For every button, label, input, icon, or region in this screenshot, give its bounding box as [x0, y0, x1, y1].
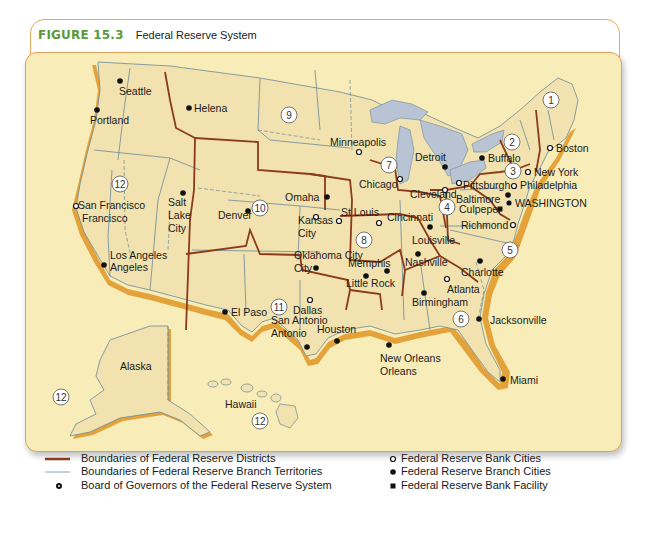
branch-city-dot-icon: [505, 192, 511, 198]
bank-city-open-circle-icon: [337, 219, 342, 224]
city-cleveland: Cleveland: [410, 188, 457, 201]
branch-city-dot-icon: [324, 194, 330, 200]
city-label: Omaha: [285, 191, 320, 203]
map-label: City: [298, 227, 317, 239]
city-label: Memphis: [348, 257, 391, 269]
city-label: Salt: [168, 196, 186, 208]
map-label: Francisco: [82, 212, 128, 224]
svg-text:2: 2: [509, 137, 515, 148]
branch-city-dot-icon: [442, 164, 448, 170]
map-label: Angeles: [110, 261, 148, 273]
board-of-governors-dot-icon: [506, 200, 512, 206]
bank-city-open-circle-icon: [526, 170, 531, 175]
branch-city-dot-icon: [384, 268, 390, 274]
city-denver: Denver: [218, 208, 252, 221]
city-label: Birmingham: [412, 296, 468, 308]
city-new-york: New York: [526, 166, 580, 178]
map-label: City: [294, 262, 313, 274]
map-label: Antonio: [271, 327, 307, 339]
district-12-alaska-marker: 12: [53, 389, 69, 405]
branch-city-dot-icon: [222, 309, 228, 315]
city-label: Cincinnati: [387, 211, 433, 223]
district-4-marker: 4: [439, 199, 455, 215]
branch-city-dot-icon: [476, 316, 482, 322]
city-philadelphia: Philadelphia: [512, 179, 578, 191]
svg-text:9: 9: [286, 110, 292, 121]
district-6-marker: 6: [453, 311, 469, 327]
city-label: El Paso: [231, 306, 267, 318]
city-culpeper: Culpeper: [459, 203, 503, 215]
branch-city-dot-icon: [500, 376, 506, 382]
svg-text:1: 1: [548, 95, 554, 106]
city-label: Little Rock: [346, 277, 396, 289]
map-label: Hawaii: [225, 398, 257, 410]
branch-city-dot-icon: [479, 155, 485, 161]
svg-text:12: 12: [254, 416, 266, 427]
city-label: St Louis: [341, 206, 379, 218]
city-richmond: Richmond: [461, 219, 516, 231]
branch-city-dot-icon: [101, 262, 107, 268]
city-label: Los Angeles: [110, 249, 167, 261]
map-label: Alaska: [120, 360, 152, 372]
district-9-marker: 9: [281, 107, 297, 123]
district-8-marker: 8: [356, 232, 372, 248]
svg-text:11: 11: [274, 302, 285, 313]
city-new-orleans: New Orleans: [380, 342, 441, 364]
city-label: Pittsburgh: [463, 179, 510, 191]
city-label: Minneapolis: [330, 136, 386, 148]
bank-city-open-circle-icon: [357, 150, 362, 155]
city-label: New Orleans: [380, 352, 441, 364]
bank-city-open-circle-icon: [548, 146, 553, 151]
city-label: San Antonio: [271, 314, 328, 326]
city-label: Boston: [556, 142, 589, 154]
district-7-marker: 7: [381, 157, 397, 173]
branch-city-dot-icon: [421, 290, 427, 296]
district-2-marker: 2: [504, 134, 520, 150]
city-label: WASHINGTON: [515, 197, 587, 209]
city-label: Denver: [218, 209, 252, 221]
map-label: Orleans: [380, 365, 417, 377]
district-10-marker: 10: [252, 200, 268, 216]
svg-text:5: 5: [507, 245, 513, 256]
city-label: Culpeper: [459, 203, 502, 215]
city-chicago: Chicago: [359, 177, 403, 191]
district-12-hawaii-marker: 12: [252, 413, 268, 429]
branch-city-dot-icon: [477, 258, 483, 264]
city-label: Louisville: [412, 234, 455, 246]
district-1-marker: 1: [543, 92, 559, 108]
bank-city-open-circle-icon: [512, 184, 517, 189]
branch-city-dot-icon: [304, 344, 310, 350]
svg-text:7: 7: [386, 160, 392, 171]
branch-city-dot-icon: [180, 190, 186, 196]
svg-text:12: 12: [114, 179, 126, 190]
city-label: New York: [534, 166, 579, 178]
district-3-marker: 3: [505, 163, 521, 179]
us-federal-reserve-map: 1 2 3 4 5 6 7 8 9 10 11 12 12 12 Seattle…: [0, 0, 652, 537]
city-label: Detroit: [415, 151, 446, 163]
map-label: Lake: [168, 209, 191, 221]
city-label: Jacksonville: [490, 314, 547, 326]
svg-text:8: 8: [361, 235, 367, 246]
city-label: Chicago: [359, 178, 398, 190]
city-label: Charlotte: [461, 266, 504, 278]
svg-text:10: 10: [254, 203, 266, 214]
city-label: Cleveland: [410, 188, 457, 200]
bank-city-open-circle-icon: [398, 177, 403, 182]
city-label: Kansas: [298, 214, 333, 226]
city-label: Richmond: [461, 219, 508, 231]
branch-city-dot-icon: [386, 342, 392, 348]
bank-city-open-circle-icon: [511, 223, 516, 228]
branch-city-dot-icon: [313, 265, 319, 271]
map-label: City: [168, 222, 187, 234]
alaska: [70, 326, 213, 439]
branch-city-dot-icon: [94, 107, 100, 113]
city-label: San Francisco: [78, 199, 145, 211]
svg-text:12: 12: [55, 392, 67, 403]
district-11-marker: 11: [271, 299, 287, 315]
branch-city-dot-icon: [186, 105, 192, 111]
bank-city-open-circle-icon: [457, 181, 462, 186]
bank-city-open-circle-icon: [308, 298, 313, 303]
city-label: Atlanta: [447, 283, 480, 295]
branch-city-dot-icon: [334, 338, 340, 344]
svg-text:4: 4: [444, 202, 450, 213]
